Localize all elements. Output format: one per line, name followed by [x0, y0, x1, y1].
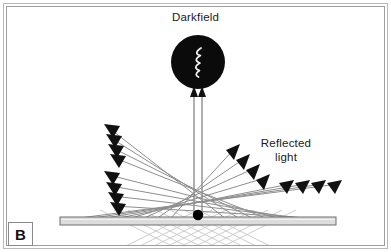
- reflected-light-label: Reflectedlight: [243, 136, 329, 164]
- specimen-dot: [193, 210, 203, 220]
- panel-label-letter: B: [15, 227, 26, 242]
- arrowhead-right-lower-4: [327, 180, 342, 194]
- arrowhead-right-upper-3: [246, 164, 260, 180]
- reflected-light-label-line2: light: [243, 150, 329, 164]
- arrowhead-right-upper-4: [256, 174, 270, 190]
- arrowhead-right-lower-2: [295, 180, 310, 194]
- darkfield-figure: Darkfield Reflectedlight B: [0, 0, 391, 252]
- arrowhead-right-upper-1: [226, 144, 240, 160]
- darkfield-objective: [171, 35, 225, 89]
- reflected-light-label-line1: Reflected: [261, 137, 311, 149]
- panel-label-box: B: [8, 222, 33, 246]
- darkfield-diagram-canvas: [0, 0, 391, 252]
- darkfield-label: Darkfield: [0, 11, 391, 23]
